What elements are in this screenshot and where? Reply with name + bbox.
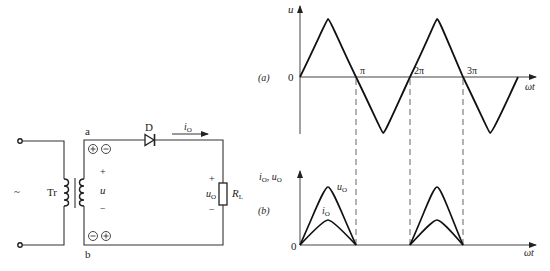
chart-b-output: iO, uO uO iO 0 ωt (b) — [258, 171, 536, 258]
current-label: iO — [184, 121, 192, 134]
circuit-labels: ~ Tr a b D iO + u − + uO − RL — [14, 121, 243, 260]
chart-b-zero: 0 — [291, 240, 297, 252]
chart-a-panel-label: (a) — [258, 72, 270, 84]
primary-wire — [22, 141, 64, 245]
primary-coil — [64, 179, 69, 206]
diode-symbol — [145, 134, 155, 146]
secondary-plus: + — [100, 166, 106, 177]
transformer-label: Tr — [47, 186, 57, 198]
load-resistor — [219, 183, 227, 205]
chart-a-zero: 0 — [288, 71, 294, 83]
output-plus: + — [209, 173, 215, 184]
output-voltage-label: uO — [206, 188, 216, 201]
io-curve-label: iO — [322, 205, 330, 218]
output-current-curve — [300, 220, 463, 245]
tick-pi: π — [360, 65, 365, 76]
node-a-label: a — [85, 125, 90, 137]
half-wave-rectifier-diagram: ~ Tr a b D iO + u − + uO − RL u 0 π 2π 3… — [0, 0, 550, 271]
input-terminal-top — [18, 139, 22, 143]
input-terminal-bottom — [18, 243, 22, 247]
chart-a-x-label: ωt — [525, 81, 535, 92]
dashed-guides — [356, 79, 463, 245]
node-b-label: b — [85, 248, 91, 260]
chart-b-x-label: ωt — [524, 247, 534, 258]
secondary-minus: − — [100, 203, 106, 214]
diode-label: D — [145, 121, 153, 133]
uo-curve-label: uO — [337, 181, 347, 194]
secondary-coil — [80, 179, 85, 206]
chart-b-y-label: iO, uO — [259, 171, 282, 184]
load-label: RL — [231, 187, 243, 201]
sine-wave-u — [300, 19, 518, 133]
chart-a-input-voltage: u 0 π 2π 3π ωt (a) — [258, 3, 536, 134]
chart-b-panel-label: (b) — [258, 205, 270, 217]
output-minus: − — [209, 204, 215, 215]
chart-a-y-label: u — [288, 3, 294, 15]
source-symbol: ~ — [14, 185, 20, 197]
tick-2pi: 2π — [414, 65, 424, 76]
tick-3pi: 3π — [467, 65, 477, 76]
secondary-voltage-label: u — [100, 184, 106, 196]
